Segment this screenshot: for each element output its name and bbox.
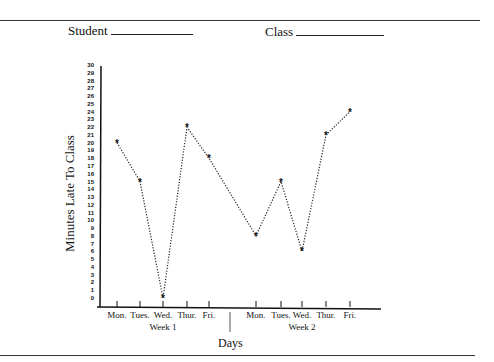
x-tick-label: Fri.	[194, 310, 224, 320]
data-point-marker: *	[185, 122, 189, 133]
data-point-marker: *	[115, 138, 119, 149]
line-chart: **********	[0, 0, 494, 362]
data-point-marker: *	[161, 293, 165, 304]
data-point-marker: *	[254, 231, 258, 242]
data-point-marker: *	[279, 177, 283, 188]
week-1-label: Week 1	[133, 322, 193, 332]
week-2-label: Week 2	[272, 322, 332, 332]
series-line	[117, 112, 350, 298]
data-point-marker: *	[324, 130, 328, 141]
x-axis-label: Days	[218, 336, 243, 351]
data-point-marker: *	[348, 107, 352, 118]
data-point-marker: *	[300, 246, 304, 257]
x-axis-line	[97, 307, 381, 309]
axes	[97, 66, 381, 332]
y-axis-line	[100, 66, 101, 307]
data-line	[117, 112, 350, 298]
data-point-marker: *	[138, 177, 142, 188]
data-points: **********	[115, 107, 352, 304]
data-point-marker: *	[207, 153, 211, 164]
x-tick-label: Fri.	[335, 310, 365, 320]
